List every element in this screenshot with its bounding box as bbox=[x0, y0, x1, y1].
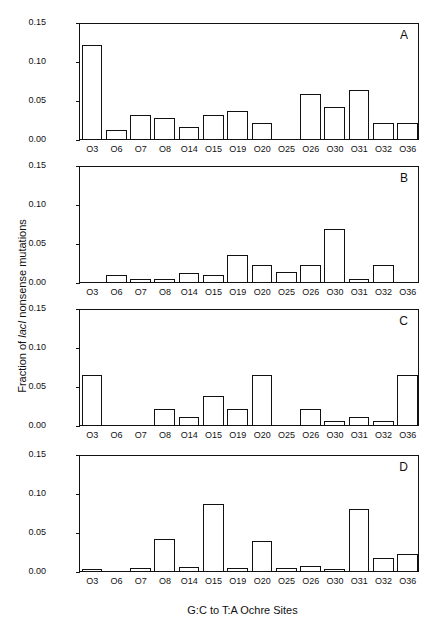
bar-o20 bbox=[252, 375, 273, 425]
bar-o3 bbox=[82, 375, 103, 425]
panel-label: D bbox=[399, 460, 408, 474]
x-tick-label: O26 bbox=[299, 430, 323, 440]
bar-o26 bbox=[300, 265, 321, 282]
panel-b: B0.000.050.100.15O3O6O7O8O14O15O19O20O25… bbox=[79, 166, 419, 283]
x-tick-label: O15 bbox=[201, 430, 225, 440]
bar-o14 bbox=[179, 417, 200, 425]
x-tick-label: O32 bbox=[371, 144, 395, 154]
bar-o32 bbox=[373, 123, 394, 139]
y-tick-mark bbox=[76, 23, 80, 24]
x-tick-label: O36 bbox=[396, 430, 420, 440]
bar-o14 bbox=[179, 273, 200, 282]
x-tick-label: O8 bbox=[153, 430, 177, 440]
x-tick-label: O19 bbox=[226, 144, 250, 154]
bar-o19 bbox=[227, 568, 248, 571]
y-tick-mark bbox=[76, 166, 80, 167]
bar-o8 bbox=[154, 118, 175, 139]
y-tick-label: 0.15 bbox=[6, 449, 46, 459]
x-tick-label: O14 bbox=[177, 430, 201, 440]
y-axis-title-gene: lacI bbox=[16, 321, 28, 338]
y-tick-label: 0.00 bbox=[6, 277, 46, 287]
y-tick-mark bbox=[76, 494, 80, 495]
y-tick-mark bbox=[76, 348, 80, 349]
bar-o36 bbox=[397, 375, 418, 425]
y-tick-label: 0.10 bbox=[6, 342, 46, 352]
x-tick-label: O32 bbox=[371, 287, 395, 297]
bar-o31 bbox=[349, 90, 370, 139]
bar-o30 bbox=[324, 107, 345, 139]
y-tick-mark bbox=[76, 205, 80, 206]
x-tick-label: O31 bbox=[347, 287, 371, 297]
x-tick-label: O6 bbox=[104, 287, 128, 297]
bar-o15 bbox=[203, 115, 224, 139]
bar-o31 bbox=[349, 509, 370, 571]
x-tick-label: O3 bbox=[80, 576, 104, 586]
x-tick-label: O6 bbox=[104, 144, 128, 154]
y-tick-label: 0.05 bbox=[6, 381, 46, 391]
x-tick-label: O20 bbox=[250, 576, 274, 586]
bar-o26 bbox=[300, 94, 321, 139]
x-tick-label: O14 bbox=[177, 144, 201, 154]
bar-o36 bbox=[397, 123, 418, 139]
y-tick-mark bbox=[76, 387, 80, 388]
panel-label: B bbox=[400, 171, 408, 185]
x-tick-label: O19 bbox=[226, 576, 250, 586]
x-tick-label: O31 bbox=[347, 576, 371, 586]
x-tick-label: O8 bbox=[153, 144, 177, 154]
x-tick-label: O19 bbox=[226, 430, 250, 440]
bar-o7 bbox=[130, 279, 151, 282]
y-tick-mark bbox=[76, 426, 80, 427]
x-tick-label: O25 bbox=[274, 287, 298, 297]
y-tick-label: 0.00 bbox=[6, 134, 46, 144]
bar-o31 bbox=[349, 417, 370, 425]
y-tick-label: 0.05 bbox=[6, 238, 46, 248]
y-tick-mark bbox=[76, 283, 80, 284]
x-tick-label: O19 bbox=[226, 287, 250, 297]
y-tick-label: 0.00 bbox=[6, 566, 46, 576]
y-tick-label: 0.10 bbox=[6, 199, 46, 209]
bar-o14 bbox=[179, 127, 200, 139]
x-tick-label: O8 bbox=[153, 287, 177, 297]
x-tick-label: O14 bbox=[177, 287, 201, 297]
x-tick-label: O7 bbox=[129, 430, 153, 440]
y-tick-mark bbox=[76, 533, 80, 534]
panel-c: C0.000.050.100.15O3O6O7O8O14O15O19O20O25… bbox=[79, 309, 419, 426]
x-axis-title: G:C to T:A Ochre Sites bbox=[0, 604, 445, 616]
x-tick-label: O25 bbox=[274, 144, 298, 154]
bar-o32 bbox=[373, 558, 394, 571]
x-tick-label: O7 bbox=[129, 287, 153, 297]
bar-o25 bbox=[276, 568, 297, 571]
x-tick-label: O6 bbox=[104, 576, 128, 586]
y-tick-mark bbox=[76, 309, 80, 310]
x-tick-label: O20 bbox=[250, 287, 274, 297]
bar-o8 bbox=[154, 409, 175, 425]
bar-o36 bbox=[397, 554, 418, 571]
y-tick-label: 0.00 bbox=[6, 420, 46, 430]
x-tick-label: O30 bbox=[323, 430, 347, 440]
y-tick-mark bbox=[76, 62, 80, 63]
panel-label: C bbox=[399, 314, 408, 328]
x-tick-label: O30 bbox=[323, 287, 347, 297]
bar-o26 bbox=[300, 409, 321, 425]
bar-o3 bbox=[82, 45, 103, 139]
bar-o3 bbox=[82, 569, 103, 571]
bar-o31 bbox=[349, 279, 370, 282]
y-tick-mark bbox=[76, 101, 80, 102]
panel-label: A bbox=[400, 28, 408, 42]
x-tick-label: O3 bbox=[80, 144, 104, 154]
x-tick-label: O32 bbox=[371, 576, 395, 586]
bar-o14 bbox=[179, 567, 200, 571]
bar-o6 bbox=[106, 275, 127, 282]
bar-o19 bbox=[227, 111, 248, 139]
bar-o20 bbox=[252, 541, 273, 571]
x-tick-label: O26 bbox=[299, 144, 323, 154]
x-tick-label: O32 bbox=[371, 430, 395, 440]
x-tick-label: O20 bbox=[250, 430, 274, 440]
x-tick-label: O3 bbox=[80, 430, 104, 440]
x-tick-label: O7 bbox=[129, 576, 153, 586]
y-tick-label: 0.10 bbox=[6, 56, 46, 66]
y-tick-label: 0.15 bbox=[6, 17, 46, 27]
x-tick-label: O8 bbox=[153, 576, 177, 586]
x-tick-label: O36 bbox=[396, 144, 420, 154]
bar-o15 bbox=[203, 396, 224, 425]
